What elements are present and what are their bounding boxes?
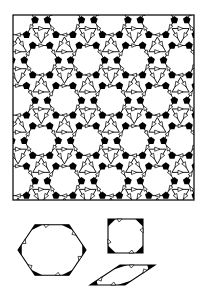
tiling-diagram [0, 0, 204, 295]
square-outline [108, 219, 143, 253]
square-prototile [108, 219, 143, 253]
